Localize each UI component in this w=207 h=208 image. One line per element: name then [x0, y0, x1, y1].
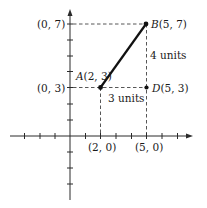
- coordinate-diagram: (0, 7) (0, 3) (2, 0) (5, 0) A(2, 3) B(5,…: [0, 0, 207, 208]
- label-horizontal-distance: 3 units: [108, 92, 145, 104]
- point-B: [144, 22, 149, 27]
- label-point-B: B(5, 7): [150, 18, 187, 30]
- point-B-coords: (5, 7): [159, 18, 187, 30]
- point-B-name: B: [150, 18, 159, 30]
- point-A: [98, 85, 103, 90]
- label-vertical-distance: 4 units: [150, 49, 187, 61]
- point-D-coords: (5, 3): [160, 82, 188, 94]
- x-axis-arrow-icon: [186, 134, 193, 139]
- point-D: [144, 85, 148, 89]
- label-point-D: D(5, 3): [151, 82, 189, 94]
- label-y7: (0, 7): [37, 18, 65, 30]
- point-A-coords: (2, 3): [84, 70, 112, 82]
- label-y3: (0, 3): [37, 82, 65, 94]
- y-axis-arrow-icon: [68, 9, 73, 16]
- label-point-A: A(2, 3): [75, 70, 112, 82]
- label-x5: (5, 0): [135, 141, 163, 153]
- label-x2: (2, 0): [88, 141, 116, 153]
